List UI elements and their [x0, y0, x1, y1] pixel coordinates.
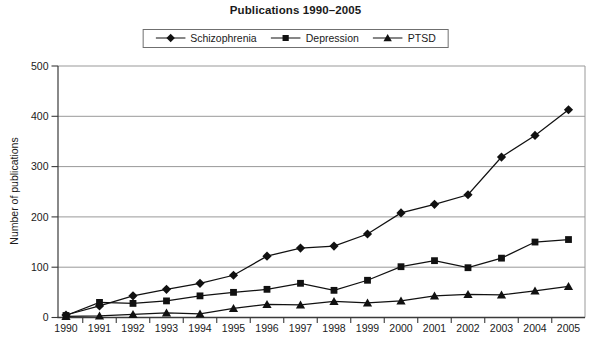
- line-chart: 0100200300400500199019911992199319941995…: [0, 0, 591, 348]
- svg-text:2002: 2002: [456, 322, 480, 334]
- svg-text:1990: 1990: [54, 322, 78, 334]
- svg-text:400: 400: [31, 110, 49, 122]
- svg-text:1992: 1992: [121, 322, 145, 334]
- svg-text:1991: 1991: [88, 322, 112, 334]
- svg-text:1996: 1996: [255, 322, 279, 334]
- svg-text:1998: 1998: [322, 322, 346, 334]
- svg-text:2001: 2001: [423, 322, 447, 334]
- svg-text:2005: 2005: [557, 322, 581, 334]
- svg-text:1999: 1999: [356, 322, 380, 334]
- publications-line-chart-figure: Publications 1990–2005 SchizophreniaDepr…: [0, 0, 591, 348]
- svg-text:2000: 2000: [389, 322, 413, 334]
- svg-text:100: 100: [31, 261, 49, 273]
- svg-text:1993: 1993: [155, 322, 179, 334]
- svg-text:0: 0: [43, 311, 49, 323]
- svg-text:200: 200: [31, 211, 49, 223]
- svg-text:300: 300: [31, 160, 49, 172]
- svg-text:1994: 1994: [188, 322, 212, 334]
- svg-text:1997: 1997: [289, 322, 313, 334]
- svg-text:500: 500: [31, 60, 49, 72]
- svg-text:2004: 2004: [523, 322, 547, 334]
- svg-text:1995: 1995: [222, 322, 246, 334]
- svg-text:2003: 2003: [490, 322, 514, 334]
